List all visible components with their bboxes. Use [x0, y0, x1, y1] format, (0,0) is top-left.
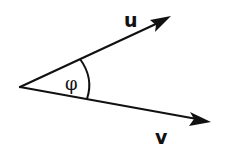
- vector-u-arrowhead-icon: [150, 16, 171, 32]
- angle-label: φ: [65, 73, 78, 94]
- vector-u: [20, 16, 171, 87]
- vector-v-label: v: [155, 126, 168, 148]
- angle-arc: [80, 59, 89, 99]
- vector-v: [20, 87, 211, 126]
- vector-angle-diagram: u v φ: [0, 0, 226, 156]
- vector-v-shaft: [20, 87, 197, 119]
- vector-u-label: u: [124, 9, 138, 31]
